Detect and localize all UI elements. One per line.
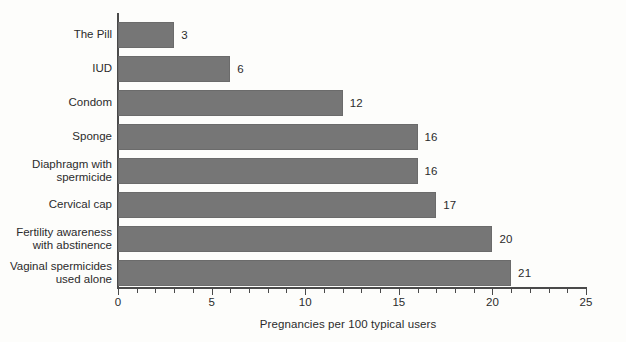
bar-row: 20 [118,226,586,252]
x-tick-label: 25 [580,296,593,308]
category-label-text: Diaphragm with spermicide [32,158,112,185]
x-tick-minor [137,288,138,293]
bar [118,226,492,252]
x-axis-title: Pregnancies per 100 typical users [0,318,626,330]
category-label-text: Sponge [72,130,112,144]
x-tick-label: 0 [115,296,121,308]
category-label: Cervical cap [0,192,112,218]
x-tick-minor [455,288,456,293]
x-tick-major [305,288,306,295]
x-tick-minor [343,288,344,293]
x-tick-minor [474,288,475,293]
x-tick-minor [193,288,194,293]
x-tick-minor [511,288,512,293]
category-label: Diaphragm with spermicide [0,158,112,184]
category-label-text: IUD [92,62,112,76]
bar-value-label: 12 [350,97,363,109]
bar-value-label: 6 [237,63,244,75]
bar-value-label: 21 [518,267,531,279]
plot-area: 36121616172021 [118,14,586,288]
category-label: The Pill [0,22,112,48]
bar-row: 16 [118,124,586,150]
bar [118,158,418,184]
bar-value-label: 16 [425,131,438,143]
category-label-text: Condom [69,96,112,110]
x-tick-minor [230,288,231,293]
x-tick-minor [155,288,156,293]
x-tick-major [212,288,213,295]
x-tick-major [586,288,587,295]
category-label-text: Vaginal spermicides used alone [10,260,112,287]
bar-value-label: 20 [499,233,512,245]
x-tick-label: 5 [208,296,214,308]
bar-row: 17 [118,192,586,218]
bar [118,124,418,150]
x-tick-major [492,288,493,295]
bar-row: 12 [118,90,586,116]
category-label-text: Fertility awareness with abstinence [16,226,112,253]
bar [118,22,174,48]
category-axis-labels: The PillIUDCondomSpongeDiaphragm with sp… [0,14,112,288]
x-tick-minor [174,288,175,293]
x-tick-minor [567,288,568,293]
bar-chart: The PillIUDCondomSpongeDiaphragm with sp… [0,0,626,342]
bar [118,90,343,116]
category-label: Vaginal spermicides used alone [0,260,112,286]
category-label: IUD [0,56,112,82]
bar-row: 21 [118,260,586,286]
x-tick-minor [436,288,437,293]
x-tick-minor [361,288,362,293]
bar-row: 3 [118,22,586,48]
x-tick-minor [418,288,419,293]
bar [118,192,436,218]
x-tick-minor [549,288,550,293]
x-tick-label: 10 [299,296,312,308]
bar-row: 6 [118,56,586,82]
category-label-text: Cervical cap [49,198,112,212]
bar-value-label: 16 [425,165,438,177]
x-tick-label: 20 [486,296,499,308]
x-tick-minor [268,288,269,293]
x-tick-minor [324,288,325,293]
x-tick-major [118,288,119,295]
bar-value-label: 17 [443,199,456,211]
category-label: Sponge [0,124,112,150]
category-label: Fertility awareness with abstinence [0,226,112,252]
x-axis-title-text: Pregnancies per 100 typical users [260,318,437,330]
x-tick-label: 15 [392,296,405,308]
x-tick-major [399,288,400,295]
bar-value-label: 3 [181,29,188,41]
bar-row: 16 [118,158,586,184]
category-label: Condom [0,90,112,116]
category-label-text: The Pill [74,28,112,42]
x-tick-minor [286,288,287,293]
x-tick-minor [530,288,531,293]
bar [118,260,511,286]
bar [118,56,230,82]
x-tick-minor [249,288,250,293]
x-tick-minor [380,288,381,293]
